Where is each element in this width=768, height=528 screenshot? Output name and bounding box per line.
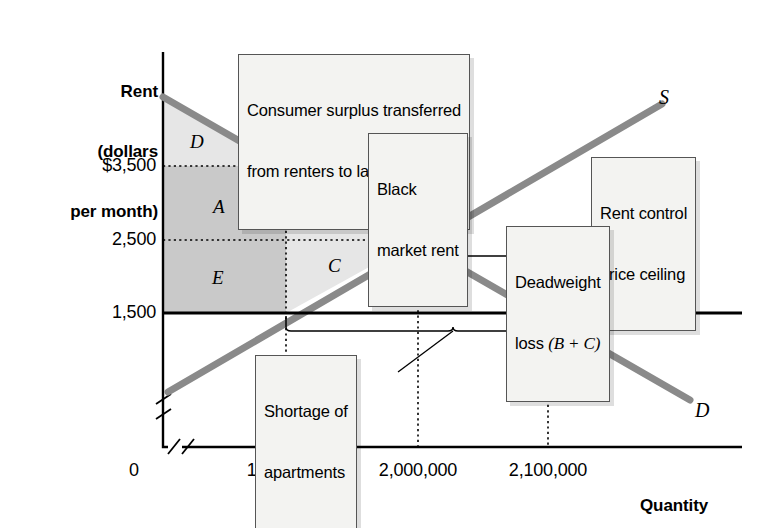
- y-axis-title-line1: Rent: [96, 82, 158, 102]
- region-label-e: E: [212, 267, 224, 289]
- callout-consumer-surplus-line1: Consumer surplus transferred: [247, 100, 461, 120]
- callout-deadweight-loss-line2-text: loss: [515, 334, 548, 352]
- x-axis-title-line1: Quantity: [640, 496, 762, 516]
- demand-curve-label: D: [695, 399, 709, 423]
- x-tick-2100000: 2,100,000: [478, 460, 618, 481]
- callout-black-market-rent: Black market rent: [368, 133, 468, 307]
- callout-deadweight-loss-line2: loss (B + C): [515, 333, 601, 355]
- rent-control-chart-figure: Rent (dollars per month) $3,500 2,500 1,…: [0, 0, 768, 528]
- callout-price-ceiling-line2: price ceiling: [600, 264, 687, 284]
- y-axis-title-line3: per month): [52, 202, 158, 222]
- callout-shortage: Shortage of apartments: [255, 355, 357, 528]
- callout-deadweight-loss-region-ref: (B + C): [548, 334, 600, 353]
- x-axis-title: Quantity (apartments per month): [622, 456, 762, 528]
- axis-corner: [163, 421, 168, 447]
- region-label-a: A: [213, 196, 225, 218]
- callout-deadweight-loss-line1: Deadweight: [515, 272, 601, 292]
- region-label-c: C: [328, 255, 341, 277]
- callout-shortage-line2: apartments: [264, 462, 348, 482]
- callout-black-market-rent-line1: Black: [377, 179, 459, 199]
- region-label-d: D: [190, 131, 204, 153]
- y-tick-3500: $3,500: [66, 155, 156, 176]
- region-e-shape: [163, 240, 286, 313]
- callout-deadweight-loss: Deadweight loss (B + C): [506, 226, 610, 402]
- callout-price-ceiling-line1: Rent control: [600, 203, 687, 223]
- leader-shortage: [398, 331, 453, 372]
- supply-curve-label: S: [659, 86, 669, 110]
- y-tick-1500: 1,500: [66, 302, 156, 323]
- x-axis-break-slash-1: [168, 439, 180, 454]
- y-tick-2500: 2,500: [66, 229, 156, 250]
- callout-black-market-rent-line2: market rent: [377, 240, 459, 260]
- x-tick-2000000: 2,000,000: [348, 460, 488, 481]
- x-tick-zero: 0: [119, 460, 149, 481]
- callout-shortage-line1: Shortage of: [264, 401, 348, 421]
